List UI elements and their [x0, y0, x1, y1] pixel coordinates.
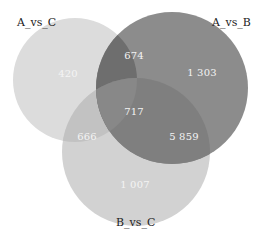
venn-circles — [0, 0, 268, 242]
region-count-a-vs-b-and-b-vs-c: 5 859 — [169, 131, 199, 142]
venn-diagram: A_vs_C A_vs_B B_vs_C 420 674 1 303 717 6… — [0, 0, 268, 242]
region-count-only-a-vs-c: 420 — [58, 68, 78, 79]
region-count-all-three: 717 — [124, 106, 144, 117]
set-label-a-vs-c: A_vs_C — [17, 16, 56, 29]
region-count-a-vs-c-and-a-vs-b: 674 — [124, 50, 144, 61]
region-count-a-vs-c-and-b-vs-c: 666 — [77, 131, 97, 142]
set-label-a-vs-b: A_vs_B — [212, 16, 251, 29]
region-count-only-b-vs-c: 1 007 — [120, 179, 150, 190]
set-label-b-vs-c: B_vs_C — [116, 216, 155, 229]
region-count-only-a-vs-b: 1 303 — [187, 67, 217, 78]
